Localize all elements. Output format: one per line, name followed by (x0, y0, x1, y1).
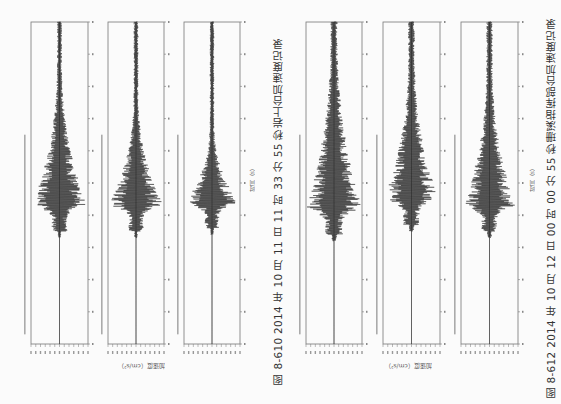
waveform-panel (299, 21, 368, 354)
x-axis-label-8-610: 时间（s） (248, 165, 256, 192)
figure-caption-8-612: 图 8-612 2014 年 10 月 12 日 00 时 00 分 55 秒珊… (543, 18, 558, 398)
y-axis-label-8-610: 加速度（cm/s²） (118, 362, 165, 371)
y-axis-label-8-612: 加速度（cm/s²） (385, 362, 432, 371)
waveform-panel (101, 21, 170, 354)
waveform-panel (454, 21, 524, 354)
waveform-panel (376, 21, 446, 354)
waveform-panel (177, 21, 246, 354)
waveform-panel (24, 21, 94, 354)
x-axis-label-8-612: 时间（s） (528, 165, 536, 192)
scanned-page: 图 8-610 2014 年 10 月 11 日 11 时 33 分 55 秒岩… (0, 0, 561, 404)
figure-caption-8-610: 图 8-610 2014 年 10 月 11 日 11 时 33 分 55 秒岩… (270, 38, 285, 385)
